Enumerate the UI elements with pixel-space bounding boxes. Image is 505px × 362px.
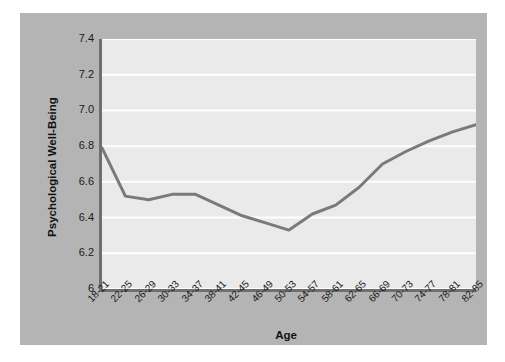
x-axis-tick-label: 66-69: [367, 279, 392, 304]
x-axis-tick-label: 74-77: [413, 279, 438, 304]
x-axis-tick-label: 38-41: [203, 279, 228, 304]
x-axis-tick-label: 18-21: [86, 279, 111, 304]
x-axis-tick-label: 30-33: [156, 279, 181, 304]
x-axis-tick-labels: 18-2122-2526-2930-3334-3738-4142-4546-49…: [0, 0, 505, 362]
x-axis-tick-label: 26-29: [133, 279, 158, 304]
x-axis-tick-label: 42-45: [226, 279, 251, 304]
x-axis-tick-label: 70-73: [390, 279, 415, 304]
x-axis-tick-label: 54-57: [296, 279, 321, 304]
chart-figure: Psychological Well-Being 7.47.27.06.86.6…: [0, 0, 505, 362]
x-axis-tick-label: 46-49: [250, 279, 275, 304]
x-axis-tick-label: 62-65: [343, 279, 368, 304]
x-axis-tick-label: 58-61: [320, 279, 345, 304]
x-axis-tick-label: 22-25: [109, 279, 134, 304]
x-axis-tick-label: 78-81: [437, 279, 462, 304]
x-axis-tick-label: 82-85: [460, 279, 485, 304]
x-axis-tick-label: 50-53: [273, 279, 298, 304]
x-axis-title: Age: [99, 329, 473, 341]
x-axis-tick-label: 34-37: [180, 279, 205, 304]
